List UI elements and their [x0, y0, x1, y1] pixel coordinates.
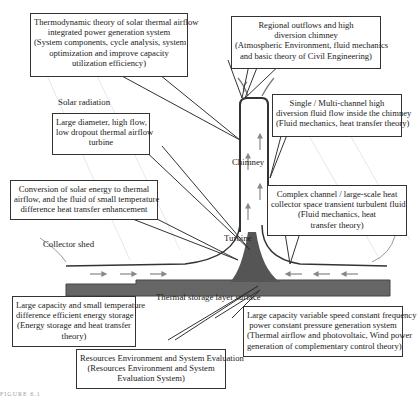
box-line: (Fluid mechanics, heat transfer theory) — [276, 118, 398, 128]
box-line: Evaluation System) — [80, 373, 222, 383]
box-line: optimization and improve capacity — [34, 48, 184, 58]
variable-speed-box: Large capacity variable speed constant f… — [243, 306, 403, 357]
box-line: Large diameter, high flow, — [56, 117, 146, 127]
collector-shed-label: Collector shed — [43, 239, 94, 249]
box-line: (Resources Environment and System — [80, 363, 222, 373]
energy-storage-box: Large capacity and small temperature dif… — [12, 296, 136, 347]
box-line: difference heat transfer enhancement — [14, 204, 154, 214]
box-line: generation of complementary control theo… — [247, 341, 399, 351]
box-line: Regional outflows and high — [235, 20, 377, 30]
box-line: (Energy storage and heat transfer — [16, 320, 132, 330]
box-line: (Atmospheric Environment, fluid mechanic… — [235, 40, 377, 50]
box-line: integrated power generation system — [34, 27, 184, 37]
box-line: airflow, and the fluid of small temperat… — [14, 194, 154, 204]
box-line: low dropout thermal airflow — [56, 127, 146, 137]
thermal-storage-label: Thermal storage layer surface — [156, 292, 261, 302]
single-multichannel-box: Single / Multi-channel high diversion fl… — [272, 94, 402, 137]
box-line: (System components, cycle analysis, syst… — [34, 37, 184, 47]
box-line: (Thermal airflow and photovoltaic, Wind … — [247, 330, 399, 340]
conversion-box: Conversion of solar energy to thermal ai… — [10, 180, 158, 220]
chimney-label: Chimney — [232, 157, 264, 167]
box-line: transfer theory) — [271, 220, 403, 230]
box-line: Large capacity and small temperature — [16, 300, 132, 310]
resources-evaluation-box: Resources Environment and System Evaluat… — [76, 349, 226, 389]
box-line: (Fluid mechanics, heat — [271, 209, 403, 219]
box-line: theory) — [16, 331, 132, 341]
figure-caption: FIGURE 6.1 — [0, 391, 41, 397]
box-line: utilization efficiency) — [34, 58, 184, 68]
box-line: diversion fluid flow inside the chimney — [276, 108, 398, 118]
box-line: Large capacity variable speed constant f… — [247, 310, 399, 320]
box-line: and basic theory of Civil Engineering) — [235, 51, 377, 61]
box-line: Complex channel / large-scale heat — [271, 189, 403, 199]
complex-channel-box: Complex channel / large-scale heat colle… — [267, 185, 407, 236]
box-line: Thermodynamic theory of solar thermal ai… — [34, 17, 184, 27]
regional-outflows-box: Regional outflows and high diversion chi… — [231, 16, 381, 69]
box-line: diversion chimney — [235, 30, 377, 40]
box-line: Resources Environment and System Evaluat… — [80, 353, 222, 363]
solar-radiation-label: Solar radiation — [58, 97, 110, 107]
turbine-label: Turbine — [224, 233, 252, 243]
box-line: Single / Multi-channel high — [276, 98, 398, 108]
turbine-design-box: Large diameter, high flow, low dropout t… — [52, 113, 150, 155]
box-line: power constant pressure generation syste… — [247, 320, 399, 330]
box-line: turbine — [56, 137, 146, 147]
box-line: difference efficient energy storage — [16, 310, 132, 320]
thermodynamic-theory-box: Thermodynamic theory of solar thermal ai… — [30, 13, 188, 77]
box-line: collector space transient turbulent flui… — [271, 199, 403, 209]
box-line: Conversion of solar energy to thermal — [14, 184, 154, 194]
